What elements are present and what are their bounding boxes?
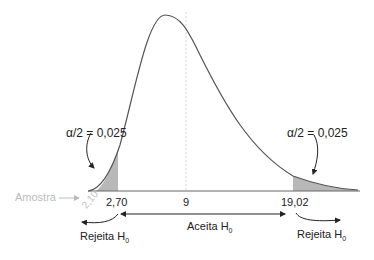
density-curve <box>88 15 358 191</box>
left-critical-value: 2,70 <box>106 196 127 208</box>
right-alpha-arrow <box>313 135 318 174</box>
reject-left-label: Rejeita H0 <box>80 230 129 244</box>
sample-label: Amostra <box>15 191 56 203</box>
reject-left-arrow <box>82 214 118 223</box>
right-critical-value: 19,02 <box>281 196 309 208</box>
left-alpha-label: α/2 = 0,025 <box>66 126 127 140</box>
reject-right-arrow <box>296 213 340 221</box>
accept-label: Aceita H0 <box>187 220 232 234</box>
reject-right-label: Rejeita H0 <box>297 228 346 242</box>
center-value: 9 <box>183 196 189 208</box>
right-alpha-label: α/2 = 0,025 <box>287 126 348 140</box>
